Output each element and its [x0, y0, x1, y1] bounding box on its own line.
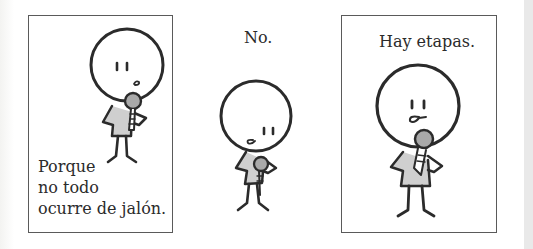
caption-line: Porque [38, 156, 166, 177]
panel-2-caption: No. [244, 27, 272, 48]
panel-1-caption: Porque no todo ocurre de jalón. [38, 156, 166, 219]
character-panel-2 [221, 81, 291, 210]
character-panel-3 [377, 65, 459, 216]
panel-3-caption: Hay etapas. [379, 31, 475, 52]
character-panel-1 [91, 29, 163, 162]
caption-line: ocurre de jalón. [38, 198, 166, 219]
caption-line: no todo [38, 177, 166, 198]
